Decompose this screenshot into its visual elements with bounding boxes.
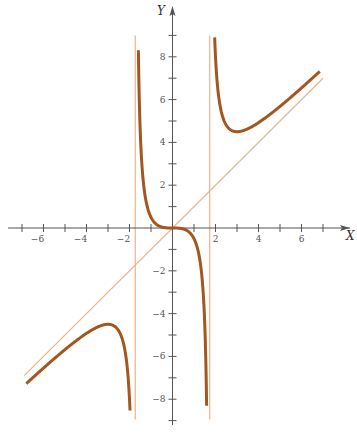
axes: −6−4−22468642−2−4−6−8 [8,6,350,425]
x-axis-label: X [345,229,355,243]
y-axis-label: Y [157,4,166,18]
curve-right-branch [215,37,320,131]
curve-branches [26,37,319,410]
x-tick-label: 2 [213,234,219,244]
x-tick-label: 4 [256,234,262,244]
x-tick-label: −4 [74,234,88,244]
x-tick-label: −2 [117,234,130,244]
y-tick-label: 6 [160,95,166,105]
y-tick-label: 4 [160,137,166,147]
y-tick-label: 2 [160,180,166,190]
y-tick-label: −4 [152,309,166,319]
y-tick-label: −8 [152,394,166,404]
y-tick-label: −2 [152,266,165,276]
curve-left-branch [26,324,130,410]
function-plot: −6−4−22468642−2−4−6−8 X Y [0,0,357,434]
x-tick-label: 6 [299,234,305,244]
x-tick-label: −6 [31,234,45,244]
y-tick-label: 8 [160,52,166,62]
y-tick-label: −6 [152,351,166,361]
